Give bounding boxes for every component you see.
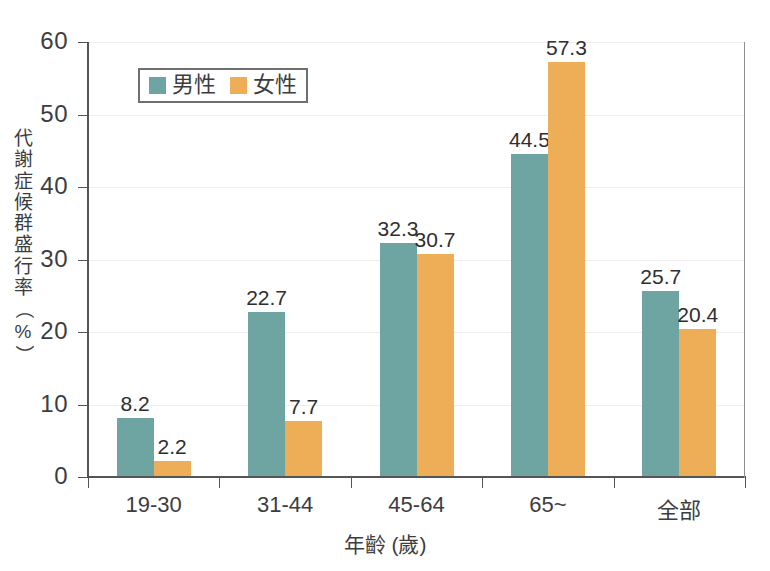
bar-female	[548, 62, 585, 477]
legend-entry-male: 男性	[149, 74, 216, 96]
plot-right-border	[744, 42, 745, 478]
y-tick-mark	[78, 115, 87, 116]
x-tick-label: 全部	[609, 492, 749, 524]
y-tick-label: 20	[40, 317, 68, 345]
x-tick-label: 45-64	[347, 492, 487, 518]
y-tick-label: 30	[40, 245, 68, 273]
bar-value-label: 57.3	[526, 36, 606, 60]
y-tick-label: 40	[40, 172, 68, 200]
y-tick-mark	[78, 477, 87, 478]
y-tick-label: 10	[40, 390, 68, 418]
bar-female	[417, 254, 454, 477]
x-tick-label: 65~	[478, 492, 618, 518]
y-axis-title-char: 症	[6, 171, 40, 192]
legend-swatch-female-icon	[230, 77, 247, 94]
bar-chart: 8.22.222.77.732.330.744.557.325.720.4 01…	[0, 0, 770, 571]
bar-value-label: 8.2	[95, 392, 175, 416]
y-tick-mark	[78, 405, 87, 406]
bar-value-label: 20.4	[658, 303, 738, 327]
y-tick-mark	[78, 332, 87, 333]
bar-value-label: 22.7	[227, 286, 307, 310]
x-axis-title: 年齡 (歲)	[0, 528, 770, 558]
legend-entry-female: 女性	[230, 74, 297, 96]
x-axis-line	[87, 476, 746, 478]
y-axis-title-char: 候	[6, 192, 40, 213]
x-tick-mark	[482, 478, 483, 488]
bar-female	[679, 329, 716, 477]
y-axis-title-paren-close: ）	[12, 337, 33, 371]
x-tick-label: 19-30	[84, 492, 224, 518]
bar-male	[511, 154, 548, 477]
y-tick-mark	[78, 187, 87, 188]
y-axis-title-char: 行	[6, 256, 40, 277]
gridline	[88, 42, 745, 43]
y-tick-mark	[78, 260, 87, 261]
y-axis-title-char: 群	[6, 213, 40, 234]
bar-value-label: 7.7	[264, 395, 344, 419]
y-axis-line	[87, 42, 89, 478]
y-axis-title-paren-open: （	[12, 293, 33, 327]
x-tick-label: 31-44	[215, 492, 355, 518]
y-axis-title: 代謝症候群盛行率（%）	[6, 128, 40, 366]
bar-female	[285, 421, 322, 477]
bar-value-label: 2.2	[132, 435, 212, 459]
y-axis-title-char: 盛	[6, 234, 40, 255]
y-tick-label: 50	[40, 100, 68, 128]
plot-area: 8.22.222.77.732.330.744.557.325.720.4	[88, 42, 745, 477]
x-tick-mark	[614, 478, 615, 488]
y-axis-title-char: 代	[6, 128, 40, 149]
y-axis-title-char: 謝	[6, 149, 40, 170]
x-tick-mark	[745, 478, 746, 488]
legend-label-female: 女性	[253, 74, 297, 96]
x-tick-mark	[219, 478, 220, 488]
y-tick-label: 60	[40, 27, 68, 55]
legend: 男性 女性	[138, 68, 308, 103]
legend-swatch-male-icon	[149, 77, 166, 94]
legend-label-male: 男性	[172, 74, 216, 96]
gridline	[88, 187, 745, 188]
y-tick-label: 0	[54, 462, 68, 490]
bar-value-label: 30.7	[395, 228, 475, 252]
y-tick-mark	[78, 42, 87, 43]
gridline	[88, 115, 745, 116]
bar-value-label: 25.7	[621, 265, 701, 289]
bar-female	[154, 461, 191, 477]
bar-male	[380, 243, 417, 477]
x-tick-mark	[351, 478, 352, 488]
x-tick-mark	[88, 478, 89, 488]
